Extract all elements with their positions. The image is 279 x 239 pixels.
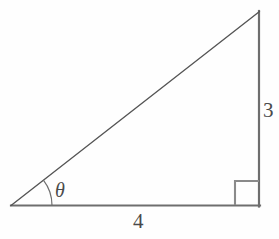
opposite-side-label: 3 xyxy=(263,100,274,121)
theta-angle-label: θ xyxy=(55,180,65,200)
hypotenuse-line xyxy=(11,12,260,206)
figure-canvas: 3 4 θ xyxy=(0,0,279,239)
theta-angle-arc xyxy=(43,180,52,205)
right-angle-marker xyxy=(235,181,259,205)
triangle-diagram xyxy=(0,0,279,239)
adjacent-side-label: 4 xyxy=(133,211,144,232)
